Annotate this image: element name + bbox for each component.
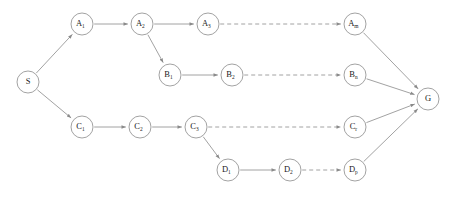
edge-Bn-to-G	[367, 79, 415, 95]
node-Cr[interactable]: Cr	[344, 116, 366, 138]
node-D2[interactable]: D2	[279, 159, 301, 181]
edge-C3-to-D1	[203, 137, 219, 159]
node-C2[interactable]: C2	[129, 116, 151, 138]
node-G[interactable]: G	[417, 88, 439, 110]
graph-svg: SA1A2A3AmB1B2BnC1C2C3CrD1D2DpG	[0, 0, 452, 197]
node-B1[interactable]: B1	[159, 64, 181, 86]
node-Dp[interactable]: Dp	[344, 159, 366, 181]
node-A2[interactable]: A2	[131, 13, 153, 35]
node-layer: SA1A2A3AmB1B2BnC1C2C3CrD1D2DpG	[17, 13, 439, 181]
node-label-S: S	[26, 76, 31, 86]
node-label-G: G	[425, 93, 431, 103]
node-Bn[interactable]: Bn	[344, 64, 366, 86]
edge-S-to-C1	[37, 90, 71, 118]
node-A1[interactable]: A1	[71, 13, 93, 35]
diagram-canvas: SA1A2A3AmB1B2BnC1C2C3CrD1D2DpG	[0, 0, 452, 197]
node-C1[interactable]: C1	[71, 116, 93, 138]
edge-Cr-to-G	[366, 104, 414, 123]
edge-Dp-to-G	[364, 109, 418, 162]
edge-A2-to-B1	[148, 35, 163, 63]
node-A3[interactable]: A3	[197, 13, 219, 35]
node-C3[interactable]: C3	[185, 116, 207, 138]
node-Am[interactable]: Am	[344, 13, 366, 35]
node-S[interactable]: S	[17, 71, 39, 93]
node-D1[interactable]: D1	[217, 159, 239, 181]
node-B2[interactable]: B2	[221, 64, 243, 86]
edge-layer	[36, 24, 418, 170]
edge-S-to-A1	[36, 34, 72, 73]
